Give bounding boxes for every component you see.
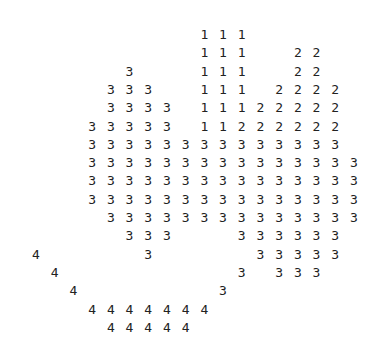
grid-cell-label-3: 3 <box>199 137 209 153</box>
grid-cell-label-3: 3 <box>162 210 172 226</box>
grid-cell-label-3: 3 <box>106 82 116 98</box>
grid-cell-label-3: 3 <box>349 155 359 171</box>
grid-cell-label-3: 3 <box>255 173 265 189</box>
grid-cell-label-3: 3 <box>87 173 97 189</box>
grid-cell-label-3: 3 <box>293 265 303 281</box>
grid-cell-label-3: 3 <box>143 192 153 208</box>
grid-cell-label-3: 3 <box>293 155 303 171</box>
grid-cell-label-3: 3 <box>330 247 340 263</box>
grid-cell-label-2: 2 <box>237 119 247 135</box>
grid-cell-label-3: 3 <box>255 155 265 171</box>
grid-cell-label-2: 2 <box>330 119 340 135</box>
grid-cell-label-3: 3 <box>143 173 153 189</box>
grid-cell-label-3: 3 <box>312 137 322 153</box>
grid-cell-label-3: 3 <box>162 155 172 171</box>
grid-cell-label-3: 3 <box>87 137 97 153</box>
grid-cell-label-3: 3 <box>162 137 172 153</box>
grid-cell-label-3: 3 <box>143 210 153 226</box>
grid-cell-label-3: 3 <box>237 155 247 171</box>
grid-cell-label-2: 2 <box>312 64 322 80</box>
grid-cell-label-3: 3 <box>143 119 153 135</box>
grid-cell-label-3: 3 <box>312 228 322 244</box>
grid-cell-label-3: 3 <box>237 192 247 208</box>
grid-cell-label-3: 3 <box>125 228 135 244</box>
grid-cell-label-2: 2 <box>274 100 284 116</box>
grid-cell-label-1: 1 <box>199 27 209 43</box>
grid-cell-label-3: 3 <box>143 228 153 244</box>
grid-cell-label-3: 3 <box>218 192 228 208</box>
grid-cell-label-3: 3 <box>330 173 340 189</box>
grid-cell-label-1: 1 <box>199 45 209 61</box>
grid-cell-label-3: 3 <box>255 192 265 208</box>
grid-cell-label-3: 3 <box>106 173 116 189</box>
grid-cell-label-3: 3 <box>237 228 247 244</box>
grid-cell-label-3: 3 <box>106 137 116 153</box>
grid-cell-label-1: 1 <box>237 27 247 43</box>
grid-cell-label-4: 4 <box>125 302 135 318</box>
grid-cell-label-3: 3 <box>181 155 191 171</box>
grid-cell-label-3: 3 <box>293 192 303 208</box>
grid-cell-label-3: 3 <box>143 82 153 98</box>
grid-cell-label-1: 1 <box>218 100 228 116</box>
grid-cell-label-3: 3 <box>237 210 247 226</box>
grid-cell-label-3: 3 <box>106 119 116 135</box>
grid-cell-label-3: 3 <box>125 210 135 226</box>
grid-cell-label-2: 2 <box>330 82 340 98</box>
grid-cell-label-3: 3 <box>87 192 97 208</box>
grid-cell-label-3: 3 <box>125 119 135 135</box>
grid-cell-label-3: 3 <box>125 192 135 208</box>
grid-cell-label-3: 3 <box>293 228 303 244</box>
grid-cell-label-3: 3 <box>218 283 228 299</box>
grid-cell-label-3: 3 <box>143 155 153 171</box>
grid-cell-label-1: 1 <box>199 100 209 116</box>
grid-cell-label-3: 3 <box>87 155 97 171</box>
grid-cell-label-3: 3 <box>125 173 135 189</box>
grid-cell-label-4: 4 <box>125 320 135 336</box>
grid-cell-label-3: 3 <box>162 119 172 135</box>
grid-cell-label-4: 4 <box>50 265 60 281</box>
grid-cell-label-3: 3 <box>199 173 209 189</box>
grid-cell-label-3: 3 <box>330 210 340 226</box>
grid-cell-label-4: 4 <box>143 302 153 318</box>
grid-cell-label-4: 4 <box>87 302 97 318</box>
label-grid: 1111112231112233311122223333111222223333… <box>0 0 382 350</box>
grid-cell-label-1: 1 <box>218 119 228 135</box>
grid-cell-label-2: 2 <box>312 100 322 116</box>
grid-cell-label-3: 3 <box>218 137 228 153</box>
grid-cell-label-2: 2 <box>274 119 284 135</box>
grid-cell-label-3: 3 <box>274 247 284 263</box>
grid-cell-label-3: 3 <box>125 82 135 98</box>
grid-cell-label-2: 2 <box>330 100 340 116</box>
grid-cell-label-1: 1 <box>237 82 247 98</box>
grid-cell-label-3: 3 <box>218 155 228 171</box>
grid-cell-label-3: 3 <box>312 173 322 189</box>
grid-cell-label-2: 2 <box>274 82 284 98</box>
grid-cell-label-3: 3 <box>125 155 135 171</box>
grid-cell-label-1: 1 <box>237 45 247 61</box>
grid-cell-label-4: 4 <box>162 320 172 336</box>
grid-cell-label-3: 3 <box>162 228 172 244</box>
grid-cell-label-3: 3 <box>125 64 135 80</box>
grid-cell-label-4: 4 <box>68 283 78 299</box>
grid-cell-label-3: 3 <box>330 137 340 153</box>
grid-cell-label-4: 4 <box>106 320 116 336</box>
grid-cell-label-3: 3 <box>255 210 265 226</box>
grid-cell-label-1: 1 <box>237 64 247 80</box>
grid-cell-label-1: 1 <box>199 64 209 80</box>
grid-cell-label-3: 3 <box>255 247 265 263</box>
grid-cell-label-4: 4 <box>31 247 41 263</box>
grid-cell-label-3: 3 <box>87 119 97 135</box>
grid-cell-label-3: 3 <box>274 210 284 226</box>
grid-cell-label-3: 3 <box>181 137 191 153</box>
grid-cell-label-4: 4 <box>143 320 153 336</box>
grid-cell-label-3: 3 <box>125 137 135 153</box>
grid-cell-label-4: 4 <box>181 320 191 336</box>
grid-cell-label-3: 3 <box>349 192 359 208</box>
grid-cell-label-3: 3 <box>162 100 172 116</box>
grid-cell-label-1: 1 <box>199 82 209 98</box>
grid-cell-label-3: 3 <box>293 173 303 189</box>
grid-cell-label-3: 3 <box>199 192 209 208</box>
grid-cell-label-1: 1 <box>218 64 228 80</box>
grid-cell-label-3: 3 <box>237 265 247 281</box>
grid-cell-label-2: 2 <box>293 100 303 116</box>
